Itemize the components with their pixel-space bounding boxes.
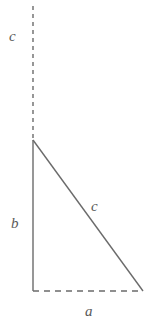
triangle-diagram-svg (0, 0, 151, 327)
triangle-figure: c b c a (0, 0, 151, 327)
hypotenuse-c-line (33, 140, 143, 291)
label-a-base: a (85, 304, 93, 319)
label-c-hypotenuse: c (91, 199, 98, 214)
label-c-extension: c (9, 29, 16, 44)
label-b-leg: b (11, 216, 19, 231)
